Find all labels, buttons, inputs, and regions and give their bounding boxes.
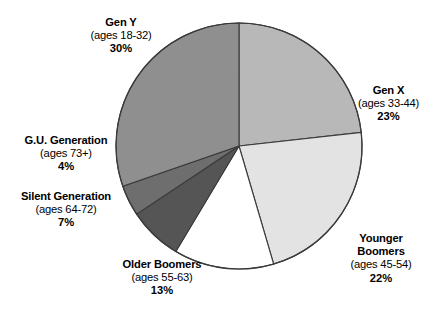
slice-label-gen-y-percent: 30%: [62, 42, 180, 55]
slice-label-gu-generation: G.U. Generation (ages 73+) 4%: [2, 134, 130, 174]
slice-label-gen-x-name: Gen X: [334, 84, 443, 97]
slice-label-gu-generation-ages: (ages 73+): [2, 147, 130, 160]
slice-label-younger-boomers-ages: (ages 45-54): [322, 258, 440, 271]
slice-label-gu-generation-percent: 4%: [2, 160, 130, 173]
slice-label-gen-x-ages: (ages 33-44): [334, 97, 443, 110]
slice-label-gu-generation-name: G.U. Generation: [2, 134, 130, 147]
slice-label-silent-generation-percent: 7%: [0, 216, 132, 229]
slice-label-younger-boomers-percent: 22%: [322, 272, 440, 285]
slice-label-gen-x-percent: 23%: [334, 110, 443, 123]
slice-label-gen-y-ages: (ages 18-32): [62, 29, 180, 42]
slice-label-younger-boomers-name-line1: Younger: [322, 232, 440, 245]
slice-label-younger-boomers: Younger Boomers (ages 45-54) 22%: [322, 232, 440, 285]
slice-label-gen-y-name: Gen Y: [62, 16, 180, 29]
slice-label-older-boomers-percent: 13%: [94, 284, 230, 297]
slice-label-gen-y: Gen Y (ages 18-32) 30%: [62, 16, 180, 56]
slice-label-silent-generation: Silent Generation (ages 64-72) 7%: [0, 190, 132, 230]
slice-label-older-boomers-ages: (ages 55-63): [94, 271, 230, 284]
slice-label-gen-x: Gen X (ages 33-44) 23%: [334, 84, 443, 124]
slice-label-silent-generation-name: Silent Generation: [0, 190, 132, 203]
pie-chart-figure: Gen Y (ages 18-32) 30% Gen X (ages 33-44…: [0, 0, 443, 315]
bottom-spacer: [0, 311, 443, 315]
slice-label-older-boomers-name: Older Boomers: [94, 258, 230, 271]
slice-label-older-boomers: Older Boomers (ages 55-63) 13%: [94, 258, 230, 298]
slice-label-silent-generation-ages: (ages 64-72): [0, 203, 132, 216]
slice-label-younger-boomers-name-line2: Boomers: [322, 245, 440, 258]
